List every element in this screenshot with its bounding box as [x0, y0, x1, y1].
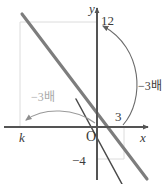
scale-annotation-right: −3배	[138, 80, 162, 92]
x-intercept-label: 3	[115, 110, 122, 123]
k-point-label: k	[19, 131, 25, 144]
scale-annotation-left: −3배	[31, 91, 55, 103]
y-intercept-label: 12	[101, 14, 114, 27]
curved-arrow-left	[26, 111, 95, 123]
y-negative-label: −4	[72, 154, 86, 167]
y-axis-label: y	[89, 2, 95, 15]
x-axis-label: x	[140, 131, 146, 144]
origin-label: O	[86, 130, 96, 144]
math-diagram-figure: y x O 12 3 −4 k −3배 −3배	[0, 0, 168, 184]
